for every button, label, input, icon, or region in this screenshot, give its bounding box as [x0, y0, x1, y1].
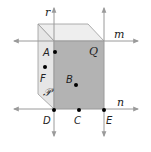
- point-b: [74, 83, 78, 87]
- label-e: E: [106, 115, 113, 126]
- point-f: [43, 65, 47, 69]
- label-b: B: [66, 74, 73, 85]
- point-c: [77, 108, 81, 112]
- label-r: r: [45, 6, 51, 19]
- label-m: m: [114, 28, 124, 41]
- label-d: D: [43, 115, 51, 126]
- point-a: [53, 50, 57, 54]
- geometry-diagram: r m n Q 𝒫 A F B D C E: [0, 0, 151, 152]
- label-f: F: [40, 73, 46, 84]
- point-e: [102, 108, 106, 112]
- point-d: [52, 108, 56, 112]
- label-q: Q: [89, 45, 98, 58]
- label-a: A: [42, 47, 50, 58]
- label-c: C: [74, 115, 81, 126]
- label-n: n: [117, 96, 124, 109]
